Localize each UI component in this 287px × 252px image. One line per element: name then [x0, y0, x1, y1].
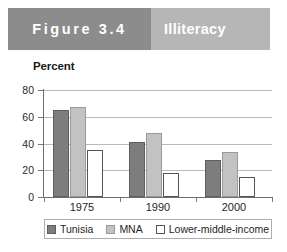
y-tick-label: 20 [10, 165, 34, 176]
x-tick-mark [196, 198, 197, 202]
legend-item-mna[interactable]: MNA [106, 224, 142, 235]
legend-swatch-icon [47, 225, 56, 234]
bar-tunisia-2000 [205, 160, 221, 197]
legend-label: MNA [119, 224, 142, 235]
x-tick-label-1975: 1975 [59, 202, 105, 213]
y-tick-label: 0 [10, 192, 34, 203]
legend-item-tunisia[interactable]: Tunisia [47, 224, 93, 235]
bar-mna-1975 [70, 107, 86, 197]
legend-label: Lower-middle-income [169, 224, 269, 235]
bar-mna-1990 [146, 133, 162, 197]
plot-area [44, 90, 272, 197]
x-tick-label-1990: 1990 [135, 202, 181, 213]
y-tick-label: 60 [10, 112, 34, 123]
bar-mna-2000 [222, 152, 238, 197]
y-tick-label: 40 [10, 139, 34, 150]
x-axis-line [43, 197, 273, 198]
y-tick-label: 80 [10, 85, 34, 96]
bar-lower-middle-income-1975 [87, 150, 103, 197]
x-tick-mark [44, 198, 45, 202]
x-tick-label-2000: 2000 [211, 202, 257, 213]
bar-lower-middle-income-2000 [239, 177, 255, 197]
legend-item-lower-middle-income[interactable]: Lower-middle-income [156, 224, 269, 235]
bar-tunisia-1975 [53, 110, 69, 197]
bar-tunisia-1990 [129, 142, 145, 197]
legend-swatch-icon [106, 225, 115, 234]
legend-label: Tunisia [60, 224, 93, 235]
bar-lower-middle-income-1990 [163, 173, 179, 197]
legend-swatch-icon [156, 225, 165, 234]
chart-plot-wrapper: 020406080 197519902000 [0, 0, 287, 252]
x-tick-mark [272, 198, 273, 202]
chart-legend: TunisiaMNALower-middle-income [44, 219, 272, 239]
x-tick-mark [120, 198, 121, 202]
